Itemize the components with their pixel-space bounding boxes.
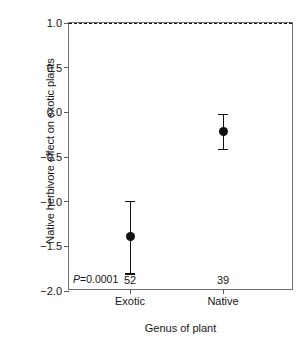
x-axis-title: Genus of plant xyxy=(68,322,293,334)
data-point-native xyxy=(219,127,228,136)
x-tick-label: Native xyxy=(207,295,238,307)
p-symbol: P xyxy=(73,273,80,285)
sample-size-label-native: 39 xyxy=(217,274,229,286)
x-tick-label: Exotic xyxy=(115,295,145,307)
y-tick-label: −0.5 xyxy=(40,151,62,163)
y-tick-label: 1.0 xyxy=(47,17,62,29)
plot-area: 1.0 0.5 0.0 −0.5 −1.0 −1.5 −2.0 xyxy=(68,22,293,290)
p-value-text: =0.0001 xyxy=(80,273,118,285)
y-tick-mark xyxy=(64,23,69,24)
zero-reference-line xyxy=(69,23,292,24)
y-tick-mark xyxy=(64,112,69,113)
y-tick-mark xyxy=(64,246,69,247)
y-tick-label: −1.5 xyxy=(40,240,62,252)
figure: Native herbivore effect on exotic plants… xyxy=(0,0,305,347)
y-tick-label: −1.0 xyxy=(40,195,62,207)
y-tick-label: −2.0 xyxy=(40,285,62,297)
y-tick-mark xyxy=(64,201,69,202)
error-bar-cap-lower xyxy=(218,149,228,150)
error-bar-cap-upper xyxy=(218,114,228,115)
y-tick-mark xyxy=(64,291,69,292)
y-tick-mark xyxy=(64,157,69,158)
x-tick-mark xyxy=(130,289,131,294)
x-tick-mark xyxy=(223,289,224,294)
y-tick-label: 0.5 xyxy=(47,61,62,73)
y-tick-label: 0.0 xyxy=(47,106,62,118)
sample-size-label-exotic: 52 xyxy=(124,274,136,286)
p-value-annotation: P=0.0001 xyxy=(73,273,118,285)
y-tick-mark xyxy=(64,67,69,68)
error-bar-cap-upper xyxy=(125,201,135,202)
data-point-exotic xyxy=(126,232,135,241)
